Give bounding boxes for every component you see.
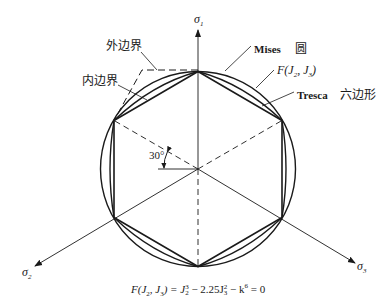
leader-outer-boundary — [141, 52, 157, 70]
formula-lhs-end: ) = J — [164, 283, 185, 295]
dashed-line-upper-right — [198, 121, 282, 170]
yield-surface-diagram: σ1 σ2 σ3 外边界 内边界 Mises 圆 F(J2, J3) Tresc… — [0, 0, 382, 306]
sigma3-subscript: 3 — [363, 267, 367, 275]
f-curve-text-2: , J — [297, 63, 308, 77]
mises-circle-cn: 圆 — [295, 42, 307, 56]
tresca-label: Tresca 六边形 — [297, 86, 376, 102]
f-curve-text-1: F(J — [277, 63, 294, 77]
angle-arc — [164, 152, 168, 169]
formula-op1: − 2.25J — [189, 283, 224, 295]
dashed-line-upper-left — [114, 121, 198, 170]
leader-f-curve — [256, 70, 274, 88]
angle-label: 30° — [149, 150, 164, 161]
f-curve-label: F(J2, J3) — [277, 64, 316, 79]
leader-inner-boundary — [118, 85, 147, 100]
formula-lhs-mid: , J — [150, 283, 160, 295]
f-curve-text-3: ) — [312, 63, 316, 77]
tresca-hexagon-cn: 六边形 — [340, 88, 376, 102]
outer-boundary-label: 外边界 — [106, 40, 142, 52]
inner-boundary-label: 内边界 — [82, 75, 118, 87]
mises-text: Mises — [254, 43, 281, 55]
sigma2-subscript: 2 — [28, 273, 32, 281]
mises-label: Mises 圆 — [254, 40, 307, 56]
formula-op2: − k — [227, 283, 244, 295]
sigma1-label: σ1 — [194, 13, 203, 28]
formula-lhs: F(J — [131, 283, 146, 295]
leader-mises — [225, 46, 251, 71]
sigma1-subscript: 1 — [200, 20, 204, 28]
formula-rhs: = 0 — [248, 283, 265, 295]
tresca-text: Tresca — [297, 89, 328, 101]
yield-formula: F(J2, J3) = J32 − 2.25J23 − k6 = 0 — [131, 283, 265, 298]
sigma2-label: σ2 — [22, 266, 31, 281]
diagram-canvas — [0, 0, 382, 306]
sigma3-label: σ3 — [357, 260, 366, 275]
sigma3-axis — [198, 169, 355, 263]
